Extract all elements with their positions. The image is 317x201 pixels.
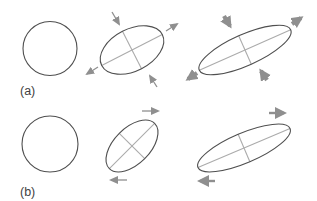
strain-ellipse-b-high	[192, 115, 296, 182]
short-axis-line	[238, 134, 250, 162]
strain-ellipse-a-moderate	[92, 16, 172, 84]
short-axis-line	[239, 36, 252, 64]
compression-arrow-icon	[150, 76, 157, 87]
short-axis-line	[122, 31, 141, 68]
figure-canvas: (a) (b)	[0, 0, 317, 201]
extension-arrow-icon	[188, 73, 197, 79]
compression-arrow-icon	[224, 16, 230, 26]
undeformed-circle-a	[23, 22, 77, 76]
extension-arrow-icon	[166, 24, 177, 31]
strain-deformation-figure: (a) (b)	[0, 0, 317, 201]
compression-arrow-icon	[261, 71, 267, 80]
extension-arrow-icon	[87, 67, 98, 74]
panel-a-label: (a)	[20, 84, 35, 98]
panel-b-label: (b)	[20, 185, 35, 199]
strain-ellipse-a-high	[193, 16, 297, 85]
extension-arrow-icon	[292, 18, 301, 24]
strain-ellipse-b-moderate	[97, 111, 168, 182]
undeformed-circle-b	[22, 116, 78, 172]
compression-arrow-icon	[112, 12, 119, 24]
